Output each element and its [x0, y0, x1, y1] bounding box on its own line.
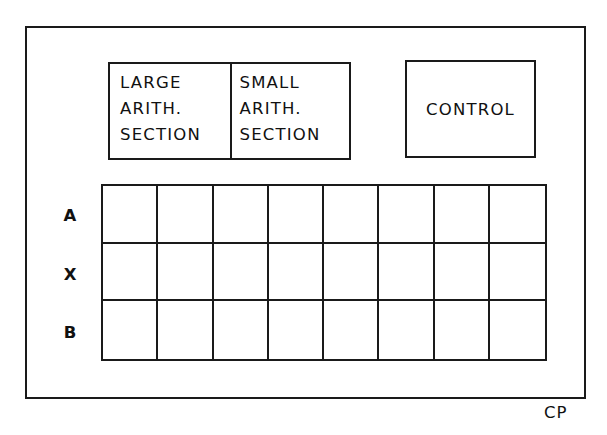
arithmetic-unit: LARGE ARITH. SECTION SMALL ARITH. SECTIO…	[108, 62, 351, 160]
register-cell-a-7	[435, 186, 490, 244]
small-arith-line-2: ARITH.	[240, 96, 350, 122]
large-arith-section: LARGE ARITH. SECTION	[110, 64, 230, 158]
small-arith-section: SMALL ARITH. SECTION	[230, 64, 350, 158]
large-arith-line-1: LARGE	[120, 70, 230, 96]
row-label-x: X	[58, 265, 82, 284]
register-cell-b-7	[435, 301, 490, 359]
large-arith-line-2: ARITH.	[120, 96, 230, 122]
register-grid	[101, 184, 547, 361]
control-label: CONTROL	[426, 100, 515, 119]
register-cell-x-7	[435, 244, 490, 302]
register-cell-b-1	[103, 301, 158, 359]
register-cell-a-8	[490, 186, 545, 244]
register-cell-a-5	[324, 186, 379, 244]
register-cell-b-4	[269, 301, 324, 359]
register-cell-b-8	[490, 301, 545, 359]
register-cell-a-1	[103, 186, 158, 244]
small-arith-line-3: SECTION	[240, 122, 350, 148]
row-label-b: B	[58, 323, 82, 342]
register-cell-x-3	[214, 244, 269, 302]
register-cell-x-2	[158, 244, 213, 302]
register-cell-a-3	[214, 186, 269, 244]
large-arith-line-3: SECTION	[120, 122, 230, 148]
register-cell-a-2	[158, 186, 213, 244]
row-label-a: A	[58, 206, 82, 225]
register-cell-a-6	[379, 186, 434, 244]
register-cell-b-2	[158, 301, 213, 359]
small-arith-line-1: SMALL	[240, 70, 350, 96]
register-cell-b-5	[324, 301, 379, 359]
register-cell-b-3	[214, 301, 269, 359]
register-cell-x-5	[324, 244, 379, 302]
control-unit: CONTROL	[405, 60, 536, 158]
register-cell-x-6	[379, 244, 434, 302]
frame-label-cp: CP	[544, 403, 567, 422]
register-cell-b-6	[379, 301, 434, 359]
register-cell-a-4	[269, 186, 324, 244]
register-cell-x-8	[490, 244, 545, 302]
register-cell-x-1	[103, 244, 158, 302]
register-cell-x-4	[269, 244, 324, 302]
